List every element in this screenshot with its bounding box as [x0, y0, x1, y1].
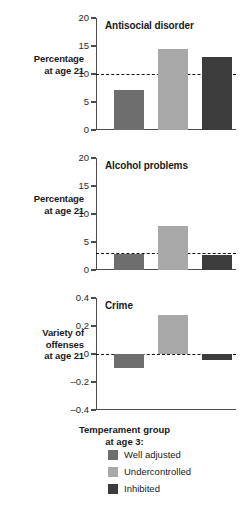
y-tick-label: 20 — [78, 13, 89, 23]
y-tick-mark — [91, 157, 96, 158]
y-tick-label: 0.2 — [76, 321, 89, 331]
x-axis-caption-line-1: Temperament group — [79, 424, 170, 435]
legend-label: Undercontrolled — [124, 467, 191, 477]
y-axis-label-panel-1: Percentage at age 21 — [4, 193, 84, 216]
figure-bar-chart-panels: Percentage at age 21 Antisocial disorder… — [0, 0, 249, 513]
plot-area-panel-0: Antisocial disorder 05101520 — [96, 18, 236, 130]
bar-inhibited — [202, 57, 232, 130]
y-axis-label-line-3: at age 21 — [44, 350, 84, 361]
y-tick-label: –0.2 — [71, 377, 90, 387]
y-tick-mark — [91, 101, 96, 102]
y-tick-mark — [91, 45, 96, 46]
y-tick-label: 15 — [78, 41, 89, 51]
legend-swatch-icon — [108, 484, 118, 494]
legend-swatch-icon — [108, 450, 118, 460]
legend-item: Inhibited — [108, 484, 191, 494]
y-tick-mark — [91, 213, 96, 214]
plot-area-panel-1: Alcohol problems 05101520 — [96, 158, 236, 270]
y-tick-mark — [91, 297, 96, 298]
y-tick-label: 10 — [78, 209, 89, 219]
y-tick-label: 5 — [84, 237, 89, 247]
y-tick-mark — [91, 17, 96, 18]
bar-well-adjusted — [114, 354, 144, 368]
legend-label: Inhibited — [124, 484, 160, 494]
bar-undercontrolled — [158, 226, 188, 270]
y-axis-label-line-1: Percentage — [34, 193, 84, 204]
bar-undercontrolled — [158, 49, 188, 130]
y-tick-label: 5 — [84, 97, 89, 107]
bar-well-adjusted — [114, 90, 144, 130]
y-tick-label: 0 — [84, 265, 89, 275]
y-tick-label: 15 — [78, 181, 89, 191]
panel-title-panel-1: Alcohol problems — [105, 160, 188, 171]
x-axis-caption: Temperament group at age 3: — [0, 424, 249, 447]
y-axis-label-line-1: Percentage — [34, 53, 84, 64]
bar-undercontrolled — [158, 315, 188, 354]
chart-panel-alcohol-problems: Percentage at age 21 Alcohol problems 05… — [0, 154, 249, 282]
panel-title-panel-2: Crime — [105, 300, 133, 311]
y-tick-label: 20 — [78, 153, 89, 163]
chart-panel-crime: Variety of offenses at age 21 Crime –0.4… — [0, 294, 249, 422]
bar-inhibited — [202, 354, 232, 360]
panel-title-panel-0: Antisocial disorder — [105, 20, 194, 31]
y-tick-label: 10 — [78, 69, 89, 79]
y-tick-mark — [91, 325, 96, 326]
y-axis-label-panel-0: Percentage at age 21 — [4, 53, 84, 76]
y-tick-mark — [91, 185, 96, 186]
legend-label: Well adjusted — [124, 450, 181, 460]
y-tick-label: 0.4 — [76, 293, 89, 303]
bar-well-adjusted — [114, 254, 144, 270]
y-axis-label-line-2: offenses — [46, 339, 84, 350]
plot-area-panel-2: Crime –0.4–0.200.20.4 — [96, 298, 236, 410]
chart-panel-antisocial-disorder: Percentage at age 21 Antisocial disorder… — [0, 14, 249, 142]
x-axis-caption-line-2: at age 3: — [105, 436, 144, 447]
y-tick-label: 0 — [84, 125, 89, 135]
y-tick-mark — [91, 129, 96, 130]
y-tick-mark — [91, 381, 96, 382]
legend-item: Undercontrolled — [108, 467, 191, 477]
y-tick-mark — [91, 409, 96, 410]
x-axis-line — [96, 409, 236, 410]
legend-item: Well adjusted — [108, 450, 191, 460]
y-tick-label: 0 — [84, 349, 89, 359]
y-tick-mark — [91, 269, 96, 270]
bar-inhibited — [202, 255, 232, 270]
legend: Well adjustedUndercontrolledInhibited — [108, 450, 191, 494]
legend-swatch-icon — [108, 467, 118, 477]
y-tick-label: –0.4 — [71, 405, 90, 415]
y-axis-label-panel-2: Variety of offenses at age 21 — [4, 327, 84, 362]
y-tick-mark — [91, 241, 96, 242]
